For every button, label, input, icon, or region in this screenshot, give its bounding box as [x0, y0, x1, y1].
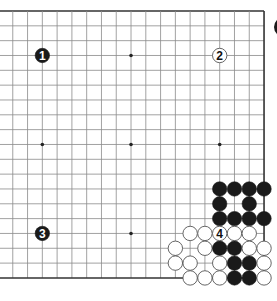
- black-stone: [242, 197, 256, 211]
- star-point: [129, 54, 133, 58]
- black-stone: [227, 241, 241, 255]
- white-stone: [183, 226, 197, 240]
- white-stone: [198, 226, 212, 240]
- black-stone: [213, 241, 227, 255]
- white-stone: [242, 226, 256, 240]
- black-stone: [227, 182, 241, 196]
- black-stone: [227, 271, 241, 285]
- white-stone: [257, 271, 271, 285]
- clipped-black-stone: [274, 17, 277, 37]
- white-stone: [168, 241, 182, 255]
- white-stone: [198, 241, 212, 255]
- move-number-4: 4: [216, 227, 223, 241]
- white-stone: [213, 256, 227, 270]
- star-point: [129, 143, 133, 147]
- white-stone: [213, 271, 227, 285]
- white-stone: [257, 241, 271, 255]
- stones: [35, 48, 271, 285]
- star-point: [41, 143, 45, 147]
- move-number-3: 3: [39, 227, 46, 241]
- white-stone: [183, 271, 197, 285]
- clipped-adjacent-stone: [274, 17, 277, 37]
- black-stone: [257, 182, 271, 196]
- black-stone: [227, 211, 241, 225]
- white-stone: [227, 226, 241, 240]
- black-stone: [213, 197, 227, 211]
- black-stone: [227, 256, 241, 270]
- star-point: [129, 232, 133, 236]
- white-stone: [198, 271, 212, 285]
- black-stone: [213, 211, 227, 225]
- black-stone: [242, 256, 256, 270]
- black-stone: [257, 211, 271, 225]
- black-stone: [242, 211, 256, 225]
- move-number-1: 1: [39, 49, 46, 63]
- black-stone: [242, 271, 256, 285]
- black-stone: [242, 182, 256, 196]
- white-stone: [257, 256, 271, 270]
- star-point: [218, 143, 222, 147]
- move-number-2: 2: [216, 49, 223, 63]
- white-stone: [183, 256, 197, 270]
- white-stone: [168, 256, 182, 270]
- black-stone: [213, 182, 227, 196]
- white-stone: [242, 241, 256, 255]
- go-board: 1234: [0, 0, 277, 301]
